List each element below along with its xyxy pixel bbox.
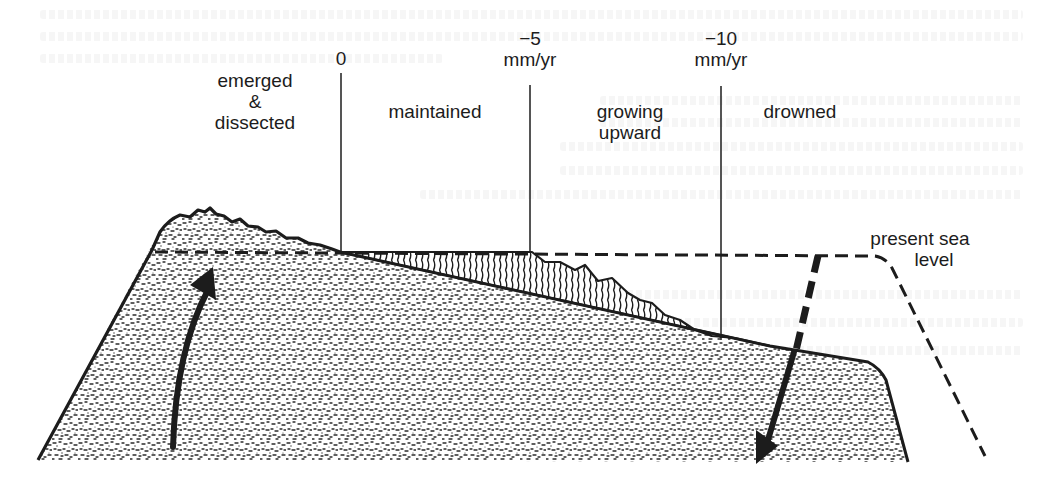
zone-label-line: growing: [560, 101, 700, 122]
zone-label-maintained: maintained: [360, 101, 510, 122]
sea-level-label-line: present sea: [860, 228, 980, 249]
boundary-value: −5: [490, 28, 570, 49]
zone-label-line: &: [185, 91, 325, 112]
zone-label-line: drowned: [745, 101, 855, 122]
boundary-unit: mm/yr: [490, 49, 570, 70]
sea-level-label-line: level: [860, 249, 980, 270]
zone-label-emerged-dissected: emerged & dissected: [185, 70, 325, 133]
subsidence-guide-dashed: [795, 256, 818, 355]
boundary-value: 0: [321, 48, 361, 69]
zone-label-line: emerged: [185, 70, 325, 91]
zone-label-line: dissected: [185, 112, 325, 133]
sea-level-label: present sea level: [860, 228, 980, 270]
zone-label-growing-upward: growing upward: [560, 101, 700, 143]
zone-label-line: maintained: [360, 101, 510, 122]
boundary-value: −10: [680, 28, 762, 49]
zone-label-line: upward: [560, 122, 700, 143]
zone-label-drowned: drowned: [745, 101, 855, 122]
boundary-label-10: −10 mm/yr: [680, 28, 762, 70]
boundary-label-5: −5 mm/yr: [490, 28, 570, 70]
boundary-unit: mm/yr: [680, 49, 762, 70]
boundary-label-0: 0: [321, 48, 361, 69]
